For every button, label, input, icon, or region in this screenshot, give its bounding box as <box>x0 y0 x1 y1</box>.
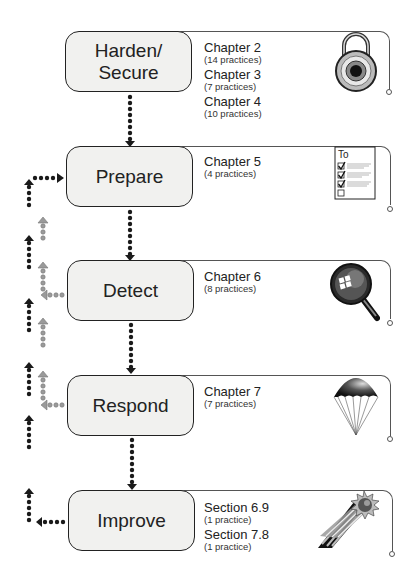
harden-references: Chapter 2 (14 practices) Chapter 3 (7 pr… <box>204 41 262 122</box>
stage-respond: Respond <box>67 375 194 436</box>
arrow-respond-to-improve <box>127 438 137 490</box>
reference-count: (14 practices) <box>204 55 262 65</box>
respond-references: Chapter 7 (7 practices) <box>204 385 261 412</box>
stage-detect: Detect <box>67 260 194 321</box>
stage-label: Respond <box>92 395 168 417</box>
stage-label: Harden/ <box>95 40 163 62</box>
stage-harden-secure: Harden/ Secure <box>65 31 192 92</box>
stage-label: Prepare <box>96 166 164 188</box>
feedback-loop-gray <box>38 217 64 410</box>
arrow-detect-to-respond <box>126 323 136 374</box>
reference-title: Chapter 4 <box>204 95 262 109</box>
arrow-prepare-to-detect <box>125 210 135 261</box>
bracket-endcap <box>389 551 395 557</box>
reference-title: Chapter 2 <box>204 41 262 55</box>
arrow-harden-to-prepare <box>125 95 135 147</box>
reference-count: (7 practices) <box>204 399 261 409</box>
prepare-references: Chapter 5 (4 practices) <box>204 155 261 182</box>
reference-title: Chapter 3 <box>204 68 262 82</box>
improve-references: Section 6.9 (1 practice) Section 7.8 (1 … <box>204 501 269 555</box>
magnifying-glass-icon <box>330 262 380 322</box>
reference-count: (1 practice) <box>204 542 269 552</box>
stage-label: Detect <box>103 280 158 302</box>
parachute-icon <box>332 373 380 439</box>
security-lifecycle-diagram: Harden/ Secure Prepare Detect Respond Im… <box>0 0 417 579</box>
reference-count: (4 practices) <box>204 169 261 179</box>
reference-title: Chapter 5 <box>204 155 261 169</box>
stage-label: Improve <box>97 510 166 532</box>
bracket-endcap <box>387 320 393 326</box>
stage-improve: Improve <box>68 490 195 551</box>
svg-text:To: To <box>338 149 349 160</box>
padlock-icon <box>332 30 380 92</box>
stage-prepare: Prepare <box>66 146 193 207</box>
todo-checklist-icon: To <box>334 146 376 200</box>
reference-title: Chapter 6 <box>204 270 261 284</box>
reference-count: (10 practices) <box>204 109 262 119</box>
bracket-endcap <box>387 206 393 212</box>
bracket-endcap <box>386 89 392 95</box>
reference-count: (7 practices) <box>204 82 262 92</box>
detect-references: Chapter 6 (8 practices) <box>204 270 261 297</box>
reference-title: Section 6.9 <box>204 501 269 515</box>
reference-count: (8 practices) <box>204 284 261 294</box>
reference-title: Chapter 7 <box>204 385 261 399</box>
stage-label: Secure <box>95 62 163 84</box>
reference-count: (1 practice) <box>204 515 269 525</box>
reference-title: Section 7.8 <box>204 528 269 542</box>
bracket-endcap <box>387 436 393 442</box>
shooting-star-icon <box>318 490 382 552</box>
